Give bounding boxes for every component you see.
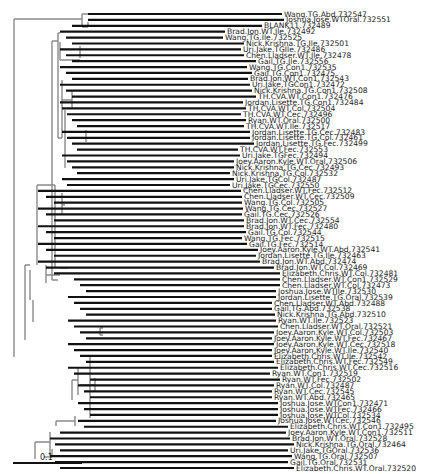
leaf-label: Elizabeth.Chris.WT.Oral.732520 [296,464,416,473]
phylogenetic-tree: Wang.TG.Abd.732547Joshua.Jose.WTOral.732… [0,0,431,474]
scale-bar-label: 0.1 [40,453,53,462]
